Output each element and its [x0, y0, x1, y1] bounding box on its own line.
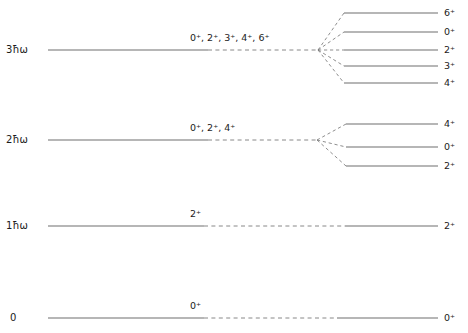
split-label-3hw-2plus: 2⁺ [444, 45, 455, 55]
multiplet-label-1hw: 2⁺ [190, 209, 201, 219]
level-lines-svg [0, 0, 468, 333]
fan-line-3hw-3plus [318, 50, 344, 66]
multiplet-label-0: 0⁺ [190, 301, 201, 311]
fan-line-2hw-0plus [317, 140, 346, 147]
split-label-2hw-2plus: 2⁺ [444, 161, 455, 171]
split-label-2hw-0plus: 0⁺ [444, 142, 455, 152]
fan-line-3hw-4plus [318, 50, 344, 83]
band-2hw-lines [48, 124, 438, 166]
split-label-3hw-4plus: 4⁺ [444, 78, 455, 88]
split-label-1hw-2plus: 2⁺ [444, 221, 455, 231]
split-label-3hw-3plus: 3⁺ [444, 61, 455, 71]
energy-label-3hw: 3ħω [6, 45, 28, 55]
split-label-3hw-0plus: 0⁺ [444, 27, 455, 37]
fan-line-2hw-4plus [317, 124, 346, 140]
split-label-3hw-6plus: 6⁺ [444, 8, 455, 18]
fan-line-3hw-0plus [318, 32, 344, 50]
split-label-0-0plus: 0⁺ [444, 313, 455, 323]
multiplet-label-2hw: 0⁺, 2⁺, 4⁺ [190, 123, 235, 133]
fan-line-3hw-6plus [318, 13, 344, 50]
energy-label-0: 0 [10, 313, 16, 323]
split-label-2hw-4plus: 4⁺ [444, 119, 455, 129]
energy-level-diagram: 3ħω 2ħω 1ħω 0 0⁺, 2⁺, 3⁺, 4⁺, 6⁺ 0⁺, 2⁺,… [0, 0, 468, 333]
energy-label-1hw: 1ħω [6, 221, 28, 231]
band-3hw-lines [48, 13, 438, 83]
multiplet-label-3hw: 0⁺, 2⁺, 3⁺, 4⁺, 6⁺ [190, 33, 269, 43]
energy-label-2hw: 2ħω [6, 135, 28, 145]
